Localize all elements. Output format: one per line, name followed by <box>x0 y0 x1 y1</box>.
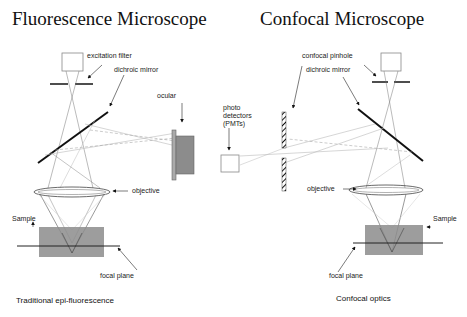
confocal-pinhole-label: confocal pinhole <box>302 52 353 60</box>
ocular-label: ocular <box>157 92 176 100</box>
dichroic-mirror-right <box>358 109 423 161</box>
dichroic-mirror-label-left: dichroic mirror <box>114 66 158 74</box>
objective-label-left: objective <box>132 187 160 195</box>
confocal-pinhole-lower <box>282 158 286 191</box>
dichroic-mirror-left <box>38 112 108 163</box>
right-optics <box>221 53 443 255</box>
left-caption: Traditional epi-fluorescence <box>16 296 114 305</box>
photo-detector-box <box>221 155 239 172</box>
objective-label-right: objective <box>307 185 335 193</box>
sample-label-left: Sample <box>12 215 36 223</box>
left-optics <box>17 53 194 257</box>
right-caption: Confocal optics <box>336 294 391 303</box>
light-source-box-right <box>381 53 401 71</box>
photo-detectors-label-1: photo <box>223 104 241 112</box>
photo-detectors-label-2: detectors <box>223 112 252 120</box>
dichroic-mirror-label-right: dichroic mirror <box>306 66 350 74</box>
sample-label-right: Sample <box>433 215 457 223</box>
focal-plane-label-left: focal plane <box>100 272 134 280</box>
microscope-diagram <box>0 0 467 317</box>
excitation-filter-label: excitation filter <box>87 52 132 60</box>
focal-plane-label-right: focal plane <box>329 272 363 280</box>
ocular <box>172 130 176 180</box>
photo-detectors-label-3: (PMTs) <box>223 120 245 128</box>
objective-lens-right <box>349 185 423 195</box>
objective-lens-left <box>34 187 110 197</box>
sample-right <box>365 225 423 255</box>
light-source-box-left <box>62 53 83 71</box>
confocal-pinhole-upper <box>282 112 286 148</box>
